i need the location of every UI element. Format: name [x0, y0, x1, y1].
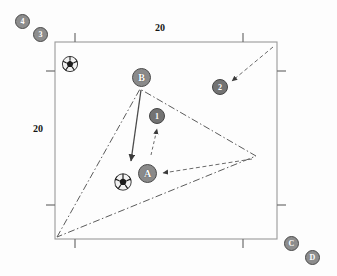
axis-label-top: 20 — [155, 22, 165, 33]
node-d[interactable]: D — [305, 250, 320, 265]
soccer-ball-icon — [115, 174, 131, 190]
diagram-svg — [0, 0, 337, 276]
node-c[interactable]: C — [284, 236, 299, 251]
arrow-to-node-2 — [232, 47, 273, 81]
node-b[interactable]: B — [132, 68, 151, 87]
node-4[interactable]: 4 — [15, 14, 30, 29]
node-1[interactable]: 1 — [149, 108, 165, 124]
node-2[interactable]: 2 — [212, 79, 228, 95]
figure-canvas: 20 20 4 3 B 2 1 A C D — [0, 0, 337, 276]
tick-marks — [46, 33, 286, 248]
node-3[interactable]: 3 — [33, 27, 48, 42]
soccer-ball-icon — [62, 56, 77, 71]
node-a[interactable]: A — [138, 164, 157, 183]
arrow-to-node-1 — [151, 129, 157, 155]
plot-frame — [55, 42, 277, 239]
arrow-b-to-ball — [131, 90, 141, 161]
arrow-to-node-a — [163, 159, 252, 173]
axis-label-left: 20 — [33, 123, 43, 134]
